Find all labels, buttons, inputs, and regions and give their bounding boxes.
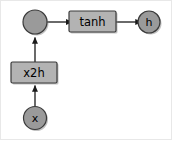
x2h-node-label: x2h	[23, 66, 44, 80]
node-x[interactable]: x	[24, 107, 47, 130]
diagram-canvas: tanh h x2h x	[0, 0, 173, 141]
node-x2h[interactable]: x2h	[11, 62, 57, 83]
h-node-label: h	[146, 16, 153, 29]
node-h[interactable]: h	[138, 11, 160, 33]
tanh-node-label: tanh	[79, 15, 105, 29]
x-node-label: x	[32, 112, 39, 125]
node-tanh[interactable]: tanh	[69, 11, 116, 32]
node-sum[interactable]	[23, 10, 47, 34]
rnn-cell-flow-graph: tanh h x2h x	[0, 0, 173, 141]
sum-node-circle[interactable]	[23, 10, 47, 34]
